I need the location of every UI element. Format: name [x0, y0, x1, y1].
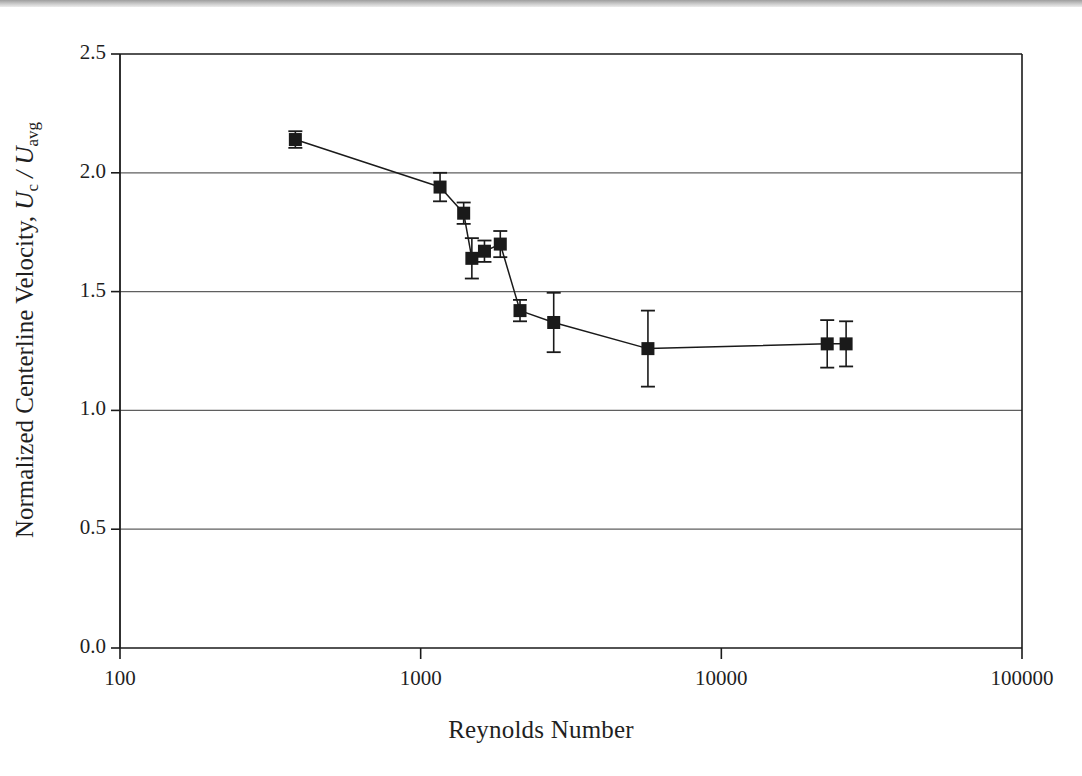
data-point-marker[interactable]: [547, 316, 560, 329]
data-point-marker[interactable]: [478, 245, 491, 258]
x-axis-title: Reynolds Number: [0, 716, 1082, 744]
y-tick-label: 0.5: [48, 515, 106, 540]
data-point-marker[interactable]: [465, 252, 478, 265]
x-tick-label: 10000: [661, 666, 781, 691]
data-point-marker[interactable]: [457, 207, 470, 220]
data-point-marker[interactable]: [494, 238, 507, 251]
data-point-marker[interactable]: [821, 337, 834, 350]
x-tick-label: 100000: [962, 666, 1082, 691]
chart-plot-area: [0, 0, 1082, 776]
y-axis-symbol-uavg: U: [11, 147, 38, 165]
y-tick-label: 2.5: [48, 40, 106, 65]
y-tick-label: 1.0: [48, 396, 106, 421]
y-tick-label: 2.0: [48, 159, 106, 184]
x-tick-label: 100: [60, 666, 180, 691]
x-tick-label: 1000: [361, 666, 481, 691]
figure-panel: Normalized Centerline Velocity, Uc / Uav…: [0, 0, 1082, 776]
y-axis-title-container: Normalized Centerline Velocity, Uc / Uav…: [0, 0, 54, 660]
y-axis-subscript-c: c: [23, 184, 42, 192]
y-tick-label: 1.5: [48, 278, 106, 303]
y-axis-subscript-avg: avg: [23, 122, 42, 147]
data-point-marker[interactable]: [641, 342, 654, 355]
y-axis-symbol-uc: U: [11, 192, 38, 210]
data-point-marker[interactable]: [514, 304, 527, 317]
y-axis-slash: /: [11, 165, 38, 184]
data-point-marker[interactable]: [434, 181, 447, 194]
data-point-marker[interactable]: [840, 337, 853, 350]
data-point-marker[interactable]: [289, 133, 302, 146]
y-axis-title: Normalized Centerline Velocity, Uc / Uav…: [11, 122, 43, 538]
y-axis-title-text: Normalized Centerline Velocity,: [11, 210, 38, 538]
y-tick-label: 0.0: [48, 634, 106, 659]
data-series-line: [295, 140, 846, 349]
